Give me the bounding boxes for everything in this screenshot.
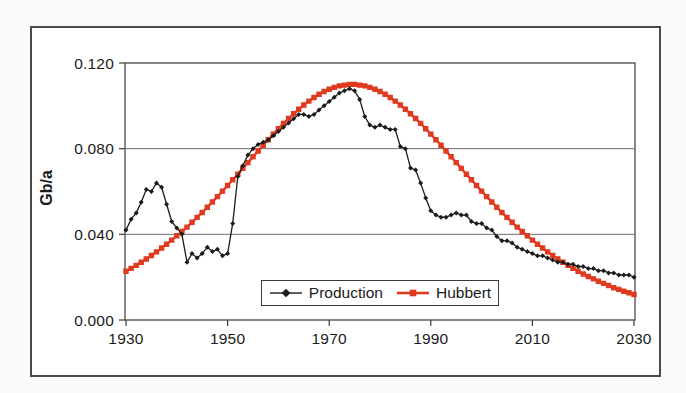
x-tick-label-1970: 1970 (297, 330, 361, 347)
legend-item-production: Production (269, 284, 383, 302)
legend: Production Hubbert (261, 280, 499, 306)
y-tick-label-0.000: 0.000 (60, 312, 114, 329)
y-tick-label-0.080: 0.080 (60, 140, 114, 157)
x-tick-label-1950: 1950 (196, 330, 260, 347)
production-line-diamond-icon (269, 287, 303, 299)
scanned-chart-figure: Gb/a 0.0000.0400.0800.120193019501970199… (0, 0, 686, 393)
legend-label-hubbert: Hubbert (436, 284, 491, 302)
legend-item-hubbert: Hubbert (396, 284, 491, 302)
x-tick-label-1990: 1990 (399, 330, 463, 347)
x-tick-label-1930: 1930 (94, 330, 158, 347)
hubbert-line-square-icon (396, 287, 430, 299)
x-tick-label-2010: 2010 (500, 330, 564, 347)
legend-label-production: Production (309, 284, 383, 302)
y-axis-title: Gb/a (38, 156, 58, 220)
y-tick-label-0.040: 0.040 (60, 226, 114, 243)
x-tick-label-2030: 2030 (602, 330, 666, 347)
y-tick-label-0.120: 0.120 (60, 55, 114, 72)
